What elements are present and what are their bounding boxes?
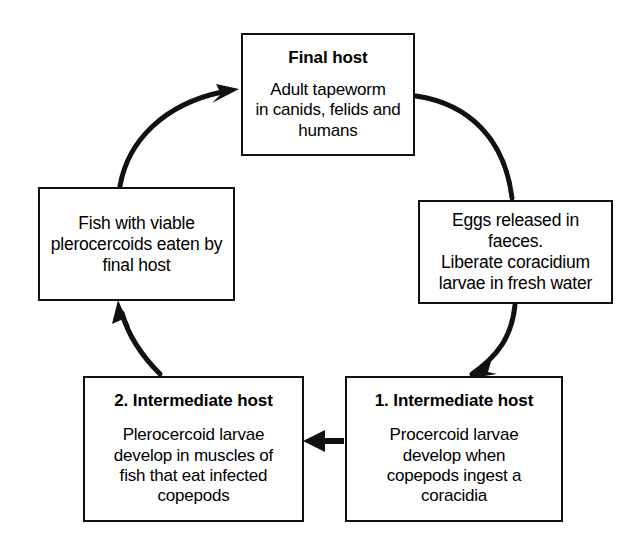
node-final-host: Final host Adult tapeworm in canids, fel…	[241, 33, 415, 156]
node-fish-with-plerocercoids: Fish with viable plerocercoids eaten by …	[38, 187, 235, 301]
connector-fish-to-final-host	[120, 92, 222, 186]
node-eggs-released-body: Eggs released in faeces. Liberate coraci…	[428, 210, 603, 294]
node-intermediate-host-2: 2. Intermediate host Plerocercoid larvae…	[83, 376, 304, 522]
node-intermediate-host-1-body: Procercoid larvae develop when copepods …	[387, 425, 522, 507]
arrowhead-int1-to-int2	[303, 430, 325, 452]
node-final-host-body: Adult tapeworm in canids, felids and hum…	[255, 80, 400, 141]
node-intermediate-host-2-title: 2. Intermediate host	[114, 391, 273, 411]
connector-int2-to-fish	[122, 313, 160, 374]
arrowhead-int2-to-fish	[112, 300, 130, 327]
connector-eggs-to-int1	[472, 305, 515, 374]
node-final-host-title: Final host	[288, 48, 367, 68]
node-eggs-released: Eggs released in faeces. Liberate coraci…	[418, 200, 613, 304]
node-intermediate-host-2-body: Plerocercoid larvae develop in muscles o…	[114, 425, 273, 507]
arrowhead-fish-to-final-host	[212, 84, 239, 103]
life-cycle-diagram: Final host Adult tapeworm in canids, fel…	[0, 0, 634, 551]
connector-final-host-to-eggs	[416, 96, 512, 198]
node-fish-with-plerocercoids-body: Fish with viable plerocercoids eaten by …	[51, 213, 223, 276]
node-intermediate-host-1: 1. Intermediate host Procercoid larvae d…	[345, 376, 563, 522]
node-intermediate-host-1-title: 1. Intermediate host	[375, 391, 534, 411]
